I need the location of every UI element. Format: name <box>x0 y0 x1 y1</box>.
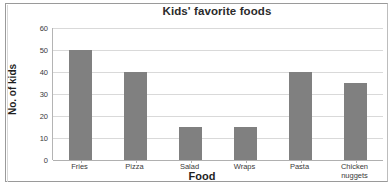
axis-baseline <box>53 160 383 161</box>
plot-area <box>52 28 382 160</box>
gridline <box>53 28 383 29</box>
bar[interactable] <box>69 50 92 160</box>
gridline <box>53 50 383 51</box>
gridline <box>53 94 383 95</box>
bar[interactable] <box>289 72 312 160</box>
y-tick-label: 30 <box>24 90 48 99</box>
y-tick-label: 20 <box>24 112 48 121</box>
y-tick-label: 60 <box>24 24 48 33</box>
x-axis-title: Food <box>52 170 352 182</box>
bar[interactable] <box>234 127 257 160</box>
y-tick-label: 40 <box>24 68 48 77</box>
y-tick-label: 50 <box>24 46 48 55</box>
chart-title: Kids' favorite foods <box>52 3 382 20</box>
y-tick-label: 10 <box>24 134 48 143</box>
gridline <box>53 72 383 73</box>
y-tick-label: 0 <box>24 156 48 165</box>
chart-screenshot: Kids' favorite foods No. of kids 6050403… <box>0 0 392 183</box>
bar[interactable] <box>124 72 147 160</box>
gridline <box>53 138 383 139</box>
gridline <box>53 116 383 117</box>
y-axis-tick-labels: 6050403020100 <box>22 28 48 160</box>
bar[interactable] <box>179 127 202 160</box>
bar[interactable] <box>344 83 367 160</box>
y-axis-title: No. of kids <box>7 60 18 120</box>
